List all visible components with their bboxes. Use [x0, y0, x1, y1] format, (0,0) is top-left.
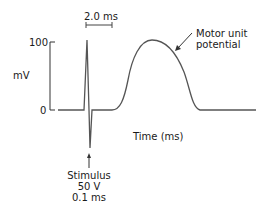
- scale-bar-label: 2.0 ms: [84, 11, 118, 22]
- stimulus-label: Stimulus: [64, 170, 114, 181]
- stimulus-arrow: [87, 153, 91, 168]
- y-axis-unit-label: mV: [13, 70, 30, 81]
- stimulus-duration: 0.1 ms: [64, 192, 114, 203]
- y-tick-label-0: 0: [40, 105, 46, 116]
- stimulus-voltage: 50 V: [64, 181, 114, 192]
- x-axis-label: Time (ms): [133, 131, 183, 142]
- y-tick-label-100: 100: [29, 37, 48, 48]
- motor-unit-label-line1: Motor unit: [196, 28, 247, 39]
- scale-bar: [86, 22, 112, 28]
- motor-unit-label-line2: potential: [196, 39, 240, 50]
- motor-unit-arrow: [175, 33, 192, 51]
